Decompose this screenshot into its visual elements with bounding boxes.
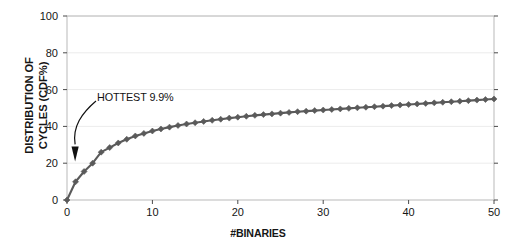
data-point (371, 104, 377, 110)
data-point (303, 108, 309, 114)
data-point (295, 109, 301, 115)
data-point (252, 112, 258, 118)
data-point (141, 130, 147, 136)
data-point (482, 97, 488, 103)
data-point (132, 133, 138, 139)
data-point (406, 102, 412, 108)
data-point (320, 107, 326, 113)
plot-area (0, 0, 516, 250)
data-point (440, 99, 446, 105)
data-point (269, 111, 275, 117)
data-point (192, 120, 198, 126)
data-point (124, 136, 130, 142)
data-point (201, 118, 207, 124)
data-point (243, 113, 249, 119)
data-point (166, 124, 172, 130)
data-point (354, 105, 360, 111)
data-point (286, 109, 292, 115)
data-point (209, 117, 215, 123)
data-point (363, 104, 369, 110)
data-point (465, 98, 471, 104)
data-point (448, 99, 454, 105)
data-point (226, 115, 232, 121)
data-point (346, 105, 352, 111)
data-point (389, 103, 395, 109)
data-point (380, 103, 386, 109)
data-point (260, 112, 266, 118)
data-point (329, 106, 335, 112)
plot-frame (67, 16, 494, 200)
series-markers (64, 96, 497, 203)
annotation-arrow-head (72, 146, 79, 161)
data-point (278, 110, 284, 116)
data-point (175, 122, 181, 128)
data-point (235, 114, 241, 120)
data-point (491, 96, 497, 102)
data-point (218, 116, 224, 122)
data-point (337, 106, 343, 112)
data-point (397, 102, 403, 108)
data-point (423, 100, 429, 106)
data-point (474, 97, 480, 103)
data-point (312, 108, 318, 114)
data-point (457, 98, 463, 104)
data-point (149, 128, 155, 134)
chart-figure: DISTRIBUTION OF CYCLES (CDF%) #BINARIES … (0, 0, 516, 250)
annotation-arrow-curve (75, 101, 96, 144)
data-point (431, 100, 437, 106)
data-point (414, 101, 420, 107)
